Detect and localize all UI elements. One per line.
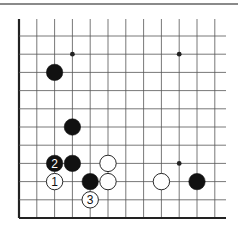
white-stone-icon <box>153 173 169 189</box>
black-stone-icon <box>64 119 80 135</box>
white-stone <box>100 173 116 189</box>
black-stone <box>64 155 80 171</box>
star-point-icon <box>177 161 182 166</box>
black-stone-move-2: 2 <box>46 155 62 171</box>
white-stone-move-1: 1 <box>46 173 62 189</box>
black-stone-icon <box>82 173 98 189</box>
star-point-icon <box>177 52 182 57</box>
white-stone-icon <box>100 155 116 171</box>
move-number-label: 1 <box>51 175 58 189</box>
move-number-label: 3 <box>87 193 94 207</box>
go-board: 213 <box>0 0 238 236</box>
move-number-label: 2 <box>51 157 58 171</box>
black-stone-icon <box>46 64 62 80</box>
black-stone <box>82 173 98 189</box>
star-point-icon <box>70 52 75 57</box>
white-stone-move-3: 3 <box>82 192 98 208</box>
black-stone-icon <box>64 155 80 171</box>
black-stone <box>189 173 205 189</box>
white-stone <box>153 173 169 189</box>
white-stone-icon <box>100 173 116 189</box>
black-stone <box>46 64 62 80</box>
black-stone-icon <box>189 173 205 189</box>
black-stone <box>64 119 80 135</box>
white-stone <box>100 155 116 171</box>
